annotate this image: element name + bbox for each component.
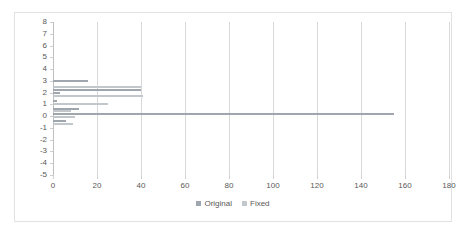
bar bbox=[53, 100, 57, 102]
x-tick-label-40: 40 bbox=[137, 182, 146, 190]
plot-area: 876543210-1-2-3-4-5 02040608010012014016… bbox=[53, 22, 449, 175]
legend-label: Fixed bbox=[250, 199, 270, 208]
bar bbox=[53, 95, 143, 97]
gridline-x-40 bbox=[141, 22, 142, 175]
gridline-x-140 bbox=[361, 22, 362, 175]
x-tick-mark-60 bbox=[185, 175, 186, 179]
y-tick-mark--1 bbox=[50, 128, 53, 129]
legend-entry-fixed[interactable]: Fixed bbox=[242, 199, 270, 208]
chart-legend: OriginalFixed bbox=[15, 199, 451, 208]
bar bbox=[53, 103, 108, 105]
y-tick-label-7: 7 bbox=[43, 30, 47, 38]
legend-label: Original bbox=[204, 199, 232, 208]
bar bbox=[53, 113, 394, 115]
bar bbox=[53, 110, 71, 112]
y-tick-label--5: -5 bbox=[40, 171, 47, 179]
bar bbox=[53, 80, 88, 82]
y-tick-mark--4 bbox=[50, 163, 53, 164]
gridline-x-180 bbox=[449, 22, 450, 175]
x-tick-label-140: 140 bbox=[354, 182, 367, 190]
y-tick-mark-4 bbox=[50, 69, 53, 70]
bar bbox=[53, 116, 75, 118]
y-tick-label-5: 5 bbox=[43, 53, 47, 61]
y-tick-label--4: -4 bbox=[40, 159, 47, 167]
gridline-x-80 bbox=[229, 22, 230, 175]
x-tick-mark-80 bbox=[229, 175, 230, 179]
y-tick-label-8: 8 bbox=[43, 18, 47, 26]
x-tick-mark-160 bbox=[405, 175, 406, 179]
x-tick-label-20: 20 bbox=[93, 182, 102, 190]
gridline-x-120 bbox=[317, 22, 318, 175]
x-tick-mark-120 bbox=[317, 175, 318, 179]
y-tick-mark-8 bbox=[50, 22, 53, 23]
x-tick-mark-140 bbox=[361, 175, 362, 179]
y-tick-mark-5 bbox=[50, 57, 53, 58]
y-tick-label--2: -2 bbox=[40, 136, 47, 144]
x-tick-label-180: 180 bbox=[442, 182, 455, 190]
x-tick-label-120: 120 bbox=[310, 182, 323, 190]
legend-swatch-icon bbox=[242, 201, 247, 206]
x-tick-mark-40 bbox=[141, 175, 142, 179]
x-tick-mark-100 bbox=[273, 175, 274, 179]
y-tick-mark-6 bbox=[50, 46, 53, 47]
y-tick-label-0: 0 bbox=[43, 112, 47, 120]
legend-swatch-icon bbox=[196, 201, 201, 206]
x-tick-label-80: 80 bbox=[225, 182, 234, 190]
x-tick-label-0: 0 bbox=[51, 182, 55, 190]
y-tick-label--3: -3 bbox=[40, 147, 47, 155]
legend-entry-original[interactable]: Original bbox=[196, 199, 232, 208]
y-tick-mark-7 bbox=[50, 34, 53, 35]
chart-frame: 876543210-1-2-3-4-5 02040608010012014016… bbox=[14, 12, 452, 222]
y-tick-label-2: 2 bbox=[43, 89, 47, 97]
y-tick-label--1: -1 bbox=[40, 124, 47, 132]
x-tick-label-60: 60 bbox=[181, 182, 190, 190]
gridline-x-100 bbox=[273, 22, 274, 175]
y-tick-label-1: 1 bbox=[43, 100, 47, 108]
bar bbox=[53, 123, 73, 125]
y-tick-label-3: 3 bbox=[43, 77, 47, 85]
x-tick-label-160: 160 bbox=[398, 182, 411, 190]
y-tick-label-6: 6 bbox=[43, 42, 47, 50]
y-tick-mark--2 bbox=[50, 140, 53, 141]
y-axis-line bbox=[53, 22, 54, 175]
x-tick-mark-180 bbox=[449, 175, 450, 179]
x-tick-mark-0 bbox=[53, 175, 54, 179]
x-tick-mark-20 bbox=[97, 175, 98, 179]
bar bbox=[53, 92, 60, 94]
bar bbox=[53, 86, 141, 88]
bar bbox=[53, 89, 141, 91]
gridline-x-60 bbox=[185, 22, 186, 175]
y-tick-label-4: 4 bbox=[43, 65, 47, 73]
y-tick-mark--3 bbox=[50, 151, 53, 152]
x-tick-label-100: 100 bbox=[266, 182, 279, 190]
bar bbox=[53, 120, 66, 122]
gridline-x-20 bbox=[97, 22, 98, 175]
gridline-x-160 bbox=[405, 22, 406, 175]
